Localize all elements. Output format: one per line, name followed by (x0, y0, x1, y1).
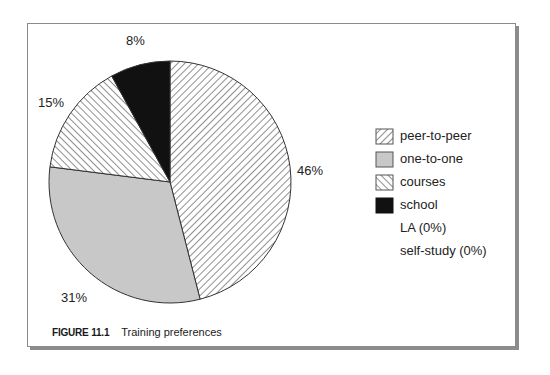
legend-swatch-courses (376, 175, 393, 190)
legend-label-peer-to-peer: peer-to-peer (400, 128, 472, 143)
legend-label-one-to-one: one-to-one (400, 151, 463, 166)
figure-number: FIGURE 11.1 (52, 327, 109, 338)
label-peer-to-peer: 46% (297, 163, 323, 178)
label-one-to-one: 31% (61, 290, 87, 305)
label-courses: 15% (38, 95, 64, 110)
legend-swatch-peer (376, 129, 393, 144)
legend-label-la: LA (0%) (400, 220, 446, 235)
legend-label-self-study: self-study (0%) (400, 243, 487, 258)
legend-swatch-school (376, 198, 393, 213)
pie-chart (0, 0, 550, 375)
legend-label-courses: courses (400, 174, 446, 189)
label-school: 8% (126, 33, 145, 48)
legend-swatch-one (376, 152, 393, 167)
figure-title: Training preferences (121, 326, 221, 338)
figure-caption: FIGURE 11.1Training preferences (52, 326, 222, 338)
legend-label-school: school (400, 197, 438, 212)
